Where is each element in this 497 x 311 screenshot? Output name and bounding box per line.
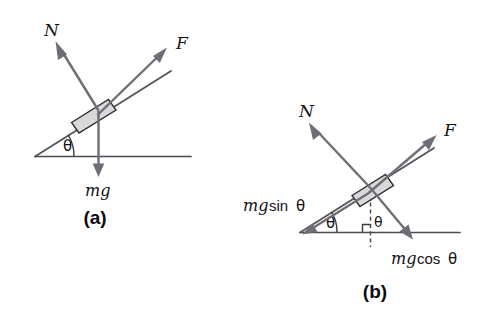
- mg-cos-label-mg: mg: [391, 249, 416, 268]
- mg-cos-label-fn: cos: [417, 250, 440, 267]
- angle-label-a: θ: [63, 137, 72, 155]
- panel-a-caption: (a): [83, 207, 106, 228]
- vector-mg-a-label: mg: [85, 181, 110, 200]
- vector-mg-cos-theta-b-label: mg cos θ: [391, 249, 457, 268]
- figure-container: θ N F mg (a) θ: [0, 0, 497, 311]
- physics-free-body-diagram: θ N F mg (a) θ: [0, 0, 497, 311]
- mg-sin-label-theta: θ: [296, 197, 305, 215]
- angle-label-b-interior: θ: [374, 214, 383, 230]
- vector-F-a-label: F: [175, 33, 189, 53]
- mg-cos-label-theta: θ: [448, 250, 457, 268]
- panel-b-caption: (b): [363, 281, 387, 302]
- vector-F-b-label: F: [443, 120, 457, 140]
- vector-N-b-label: N: [298, 101, 315, 121]
- mg-sin-label-fn: sin: [269, 197, 288, 214]
- mg-sin-label-mg: mg: [243, 196, 268, 215]
- vector-N-a-label: N: [43, 20, 60, 40]
- vector-mg-sin-theta-b-label: mg sin θ: [243, 196, 305, 215]
